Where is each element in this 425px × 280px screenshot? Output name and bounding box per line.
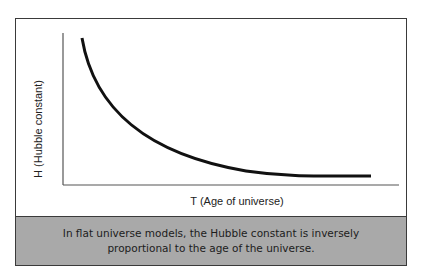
- caption-text: In flat universe models, the Hubble cons…: [38, 226, 384, 256]
- hubble-curve: [82, 38, 371, 176]
- chart-svg: [16, 19, 408, 216]
- figure-caption: In flat universe models, the Hubble cons…: [16, 216, 406, 265]
- y-axis-label: H (Hubble constant): [32, 80, 44, 178]
- figure-frame: H (Hubble constant) T (Age of universe) …: [15, 18, 407, 266]
- x-axis-label: T (Age of universe): [16, 195, 408, 207]
- plot-area: H (Hubble constant) T (Age of universe): [16, 19, 408, 216]
